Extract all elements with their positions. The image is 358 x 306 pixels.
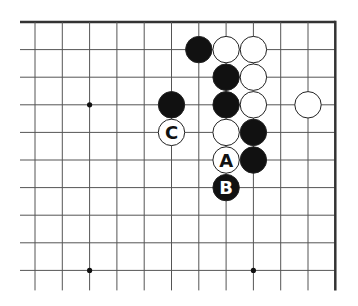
stone-label: B	[219, 177, 233, 198]
stone-c: C	[158, 119, 184, 145]
white-stone	[213, 36, 239, 62]
black-stone	[158, 92, 184, 118]
stone-b: B	[213, 174, 239, 200]
go-board-diagram: CAB	[0, 0, 358, 306]
white-stone	[295, 92, 321, 118]
white-stone-icon	[295, 92, 321, 118]
black-stone-icon	[240, 147, 266, 173]
stone-label: A	[219, 150, 233, 171]
white-stone-icon	[213, 119, 239, 145]
white-stone-icon	[240, 36, 266, 62]
white-stone	[240, 92, 266, 118]
black-stone	[186, 36, 212, 62]
white-stone	[213, 119, 239, 145]
stone-label: C	[165, 122, 178, 143]
black-stone-icon	[186, 36, 212, 62]
black-stone-icon	[213, 64, 239, 90]
star-point	[87, 102, 92, 107]
white-stone-icon	[240, 64, 266, 90]
black-stone	[240, 147, 266, 173]
black-stone-icon	[240, 119, 266, 145]
white-stone	[240, 64, 266, 90]
white-stone-icon	[240, 92, 266, 118]
grid-lines	[20, 21, 335, 291]
star-point	[251, 268, 256, 273]
stone-a: A	[213, 147, 239, 173]
black-stone	[240, 119, 266, 145]
white-stone-icon	[213, 36, 239, 62]
star-point	[87, 268, 92, 273]
black-stone-icon	[213, 92, 239, 118]
black-stone-icon	[158, 92, 184, 118]
black-stone	[213, 92, 239, 118]
black-stone	[213, 64, 239, 90]
stones: CAB	[158, 36, 321, 200]
white-stone	[240, 36, 266, 62]
